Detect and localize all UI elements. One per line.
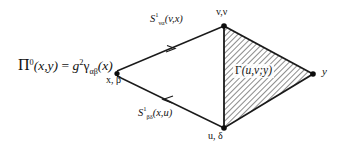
- vertex-label-top-right: v,ν: [216, 7, 227, 17]
- vertex-label-bottom-right: u, δ: [208, 131, 223, 141]
- gamma-vertex-subscript: αβ: [89, 67, 97, 76]
- propagator-label-bottom: S1βδ(x,u): [138, 106, 172, 120]
- equals-sign: =: [58, 58, 72, 73]
- vertex-label-right: y: [322, 66, 327, 77]
- feynman-diagram-figure: Π0(x,y) = g2γαβ(x) S1να(v,x) S1βδ(x,u) x…: [0, 0, 346, 151]
- pi-symbol: Π: [18, 56, 30, 73]
- vertex-dot-v: [221, 23, 227, 29]
- gamma-vertex-arguments: (x): [98, 58, 113, 73]
- pi-arguments: (x,y): [34, 58, 58, 73]
- propagator-top-superscript: 1: [155, 11, 158, 18]
- gamma-blob-symbol: Γ: [235, 64, 242, 76]
- propagator-bottom-arguments: (x,u): [153, 107, 173, 118]
- gamma-blob-label: Γ(u,v;y): [233, 64, 274, 78]
- propagator-bottom-superscript: 1: [143, 105, 146, 112]
- propagator-top-arguments: (v,x): [165, 13, 183, 24]
- gamma-blob-arguments: (u,v;y): [242, 64, 272, 76]
- vertex-label-left: x, β: [106, 75, 121, 85]
- propagator-label-top: S1να(v,x): [150, 12, 183, 26]
- vertex-dot-y: [310, 71, 316, 77]
- pi-formula: Π0(x,y) = g2γαβ(x): [18, 57, 113, 76]
- propagator-line-top: [117, 26, 224, 71]
